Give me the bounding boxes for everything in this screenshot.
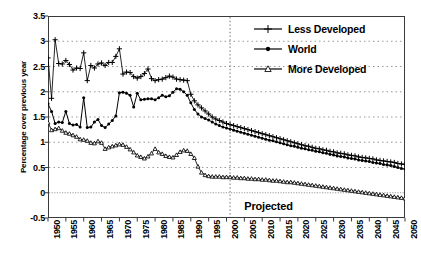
x-tick-label: 2030 <box>337 220 347 239</box>
y-tick-label: 2 <box>40 87 45 97</box>
x-tick-label: 1990 <box>194 220 204 239</box>
legend-marker-plus-icon <box>253 23 283 35</box>
y-tick-label: 3.5 <box>33 11 45 21</box>
chart-container: Percentage over previous year 3.532.521.… <box>0 0 421 260</box>
x-tick-label: 1975 <box>141 220 151 239</box>
x-axis-tick-labels: 1950195519601965197019751980198519901995… <box>48 220 405 260</box>
projected-annotation-label: Projected <box>244 200 292 212</box>
y-tick-label: 2.5 <box>33 62 45 72</box>
x-tick-label: 2020 <box>301 220 311 239</box>
y-tick-label: 0.5 <box>33 163 45 173</box>
legend-item-world[interactable]: World <box>253 42 401 56</box>
legend-label: More Developed <box>288 63 366 75</box>
x-tick-label: 1995 <box>212 220 222 239</box>
legend-item-less-developed[interactable]: Less Developed <box>253 22 401 36</box>
legend-label: World <box>288 43 317 55</box>
x-tick-label: 2045 <box>391 220 401 239</box>
chart-legend: Less DevelopedWorldMore Developed <box>253 22 401 76</box>
y-tick-label: 3 <box>40 36 45 46</box>
x-tick-label: 1965 <box>105 220 115 239</box>
y-tick-label: 1 <box>40 137 45 147</box>
x-tick-label: 1980 <box>159 220 169 239</box>
x-tick-label: 1960 <box>87 220 97 239</box>
y-axis-tick-labels: 3.532.521.510.50-0.5 <box>0 16 45 218</box>
legend-symbol <box>266 47 270 51</box>
y-tick-label: 1.5 <box>33 112 45 122</box>
y-tick-label: -0.5 <box>30 213 45 223</box>
x-tick-label: 2000 <box>230 220 240 239</box>
legend-marker-triangle-open-icon <box>253 63 283 75</box>
x-tick-label: 2040 <box>373 220 383 239</box>
y-tick-label: 0 <box>40 188 45 198</box>
legend-item-more-developed[interactable]: More Developed <box>253 62 401 76</box>
x-tick-label: 2050 <box>409 220 419 239</box>
x-tick-label: 1950 <box>52 220 62 239</box>
x-tick-label: 1955 <box>69 220 79 239</box>
x-tick-label: 1985 <box>176 220 186 239</box>
x-tick-label: 2015 <box>284 220 294 239</box>
legend-label: Less Developed <box>288 23 365 35</box>
x-tick-label: 1970 <box>123 220 133 239</box>
legend-marker-circle-filled-icon <box>253 43 283 55</box>
x-tick-label: 2010 <box>266 220 276 239</box>
x-tick-label: 2035 <box>355 220 365 239</box>
x-tick-label: 2005 <box>248 220 258 239</box>
x-tick-label: 2025 <box>319 220 329 239</box>
